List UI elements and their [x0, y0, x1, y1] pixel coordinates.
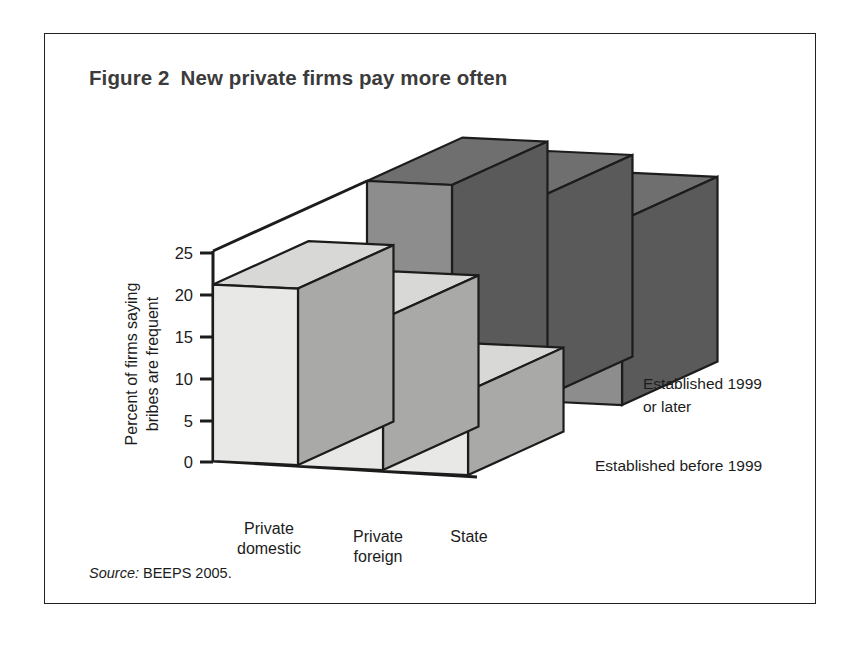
- source-text: BEEPS 2005.: [143, 565, 232, 581]
- axis-depth-edge-left: [213, 181, 367, 251]
- x-axis-category-labels: Private domestic Private foreign State: [237, 520, 488, 565]
- y-tick-label-5: 5: [184, 412, 193, 430]
- y-tick-label-15: 15: [175, 328, 193, 346]
- y-axis-title-line2: bribes are frequent: [144, 296, 161, 431]
- y-tick-label-25: 25: [175, 244, 193, 262]
- bars-layer: [213, 138, 718, 475]
- chart-plot-area: 25 20 15 10 5 0: [45, 34, 817, 605]
- cat-label-private-foreign-line1: Private: [353, 528, 403, 545]
- y-tick-label-0: 0: [184, 453, 193, 471]
- y-tick-label-20: 20: [175, 286, 193, 304]
- figure-card: Figure 2New private firms pay more often: [44, 33, 816, 604]
- y-axis-title-line1: Percent of firms saying: [123, 283, 140, 446]
- cat-label-state: State: [450, 528, 487, 545]
- three-d-bar-chart: 25 20 15 10 5 0: [45, 34, 817, 605]
- cat-label-private-domestic-line2: domestic: [237, 540, 301, 557]
- y-axis-title: Percent of firms saying bribes are frequ…: [123, 283, 161, 446]
- series-label-new-line2: or later: [643, 398, 691, 415]
- cat-label-private-foreign-line2: foreign: [354, 548, 403, 565]
- bar-front-private-domestic-face: [213, 285, 298, 465]
- source-label: Source:: [89, 565, 139, 581]
- y-tick-label-10: 10: [175, 370, 193, 388]
- series-label-new-line1: Established 1999: [643, 375, 762, 392]
- y-axis-ticks: [200, 253, 213, 462]
- source-line: Source:BEEPS 2005.: [89, 565, 232, 581]
- cat-label-private-domestic-line1: Private: [244, 520, 294, 537]
- series-label-old: Established before 1999: [595, 457, 762, 474]
